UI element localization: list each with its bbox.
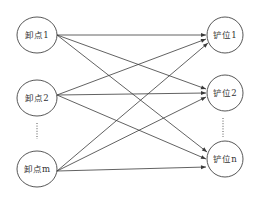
node-unload-2: 卸点2 xyxy=(17,80,57,116)
node-unload-m: 卸点m xyxy=(17,151,57,187)
bipartite-diagram: 卸点1 卸点2 卸点m 铲位1 铲位2 铲位n xyxy=(0,0,263,198)
node-label: 卸点1 xyxy=(25,30,48,40)
node-label: 铲位2 xyxy=(213,88,236,98)
node-label: 卸点2 xyxy=(25,93,48,103)
node-shovel-n: 铲位n xyxy=(207,141,243,177)
node-label: 卸点m xyxy=(24,164,50,174)
edge-l2-rn xyxy=(57,95,206,159)
edge-l2-r1 xyxy=(57,39,206,95)
node-label: 铲位1 xyxy=(213,30,236,40)
node-unload-1: 卸点1 xyxy=(17,17,57,53)
node-shovel-2: 铲位2 xyxy=(207,75,243,111)
node-label: 铲位n xyxy=(213,154,237,164)
edge-lm-rn xyxy=(57,167,206,171)
edge-l1-r2 xyxy=(57,35,206,89)
node-shovel-1: 铲位1 xyxy=(207,17,243,53)
